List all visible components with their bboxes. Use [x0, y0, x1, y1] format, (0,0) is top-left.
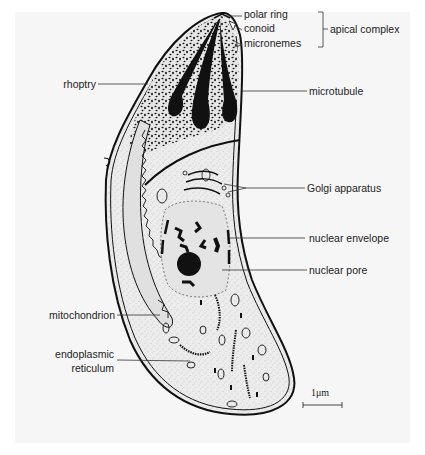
label-reticulum: reticulum [71, 362, 114, 374]
label-polar-ring: polar ring [244, 8, 288, 20]
nucleolus [177, 252, 201, 276]
label-nuclear-pore: nuclear pore [309, 264, 368, 276]
cell-body [104, 13, 294, 415]
scale-bar-label: 1μm [311, 387, 329, 398]
label-rhoptry: rhoptry [63, 78, 96, 90]
label-micronemes: micronemes [244, 37, 301, 49]
cell-diagram: polar ring conoid micronemes apical comp… [0, 0, 425, 455]
label-apical-complex: apical complex [330, 23, 400, 35]
label-conoid: conoid [244, 22, 275, 34]
label-endoplasmic: endoplasmic [55, 348, 114, 360]
label-microtubule: microtubule [309, 85, 363, 97]
scale-bar: 1μm [303, 387, 342, 408]
nucleus [161, 201, 230, 297]
label-mitochondrion: mitochondrion [49, 309, 115, 321]
label-nuclear-envelope: nuclear envelope [309, 232, 389, 244]
label-golgi-apparatus: Golgi apparatus [307, 182, 381, 194]
